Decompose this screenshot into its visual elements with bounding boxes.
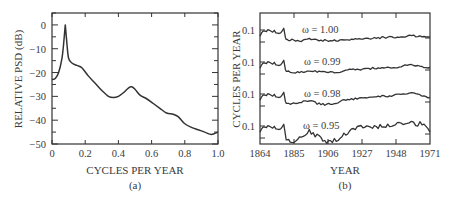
x-tick-label: 0: [49, 148, 54, 159]
panel-b-y-axis-label: CYCLES PER YEAR: [230, 30, 242, 128]
series-line: [260, 121, 430, 143]
figure: 00.20.40.60.81.0 0−10−20−30−40−50 CYCLES…: [0, 0, 453, 197]
panel-b-caption: (b): [339, 179, 352, 192]
panel-b-x-axis-label: YEAR: [330, 164, 361, 176]
y-tick-label: −40: [30, 115, 46, 126]
x-tick-label: 0.4: [112, 148, 126, 159]
series-label: ω = 0.98: [304, 88, 340, 99]
y-tick-label: −30: [30, 91, 46, 102]
panel-b-y-tick-labels: 0.10.10.10.1: [242, 25, 255, 132]
panel-a-frame: [52, 13, 218, 144]
y-tick-label: 0.1: [242, 121, 255, 132]
x-tick-label: 1.0: [211, 148, 224, 159]
panel-b-series-lines: [260, 28, 430, 143]
x-tick-label: 0.8: [178, 148, 191, 159]
y-tick-label: 0.1: [242, 25, 255, 36]
x-tick-label: 0.6: [145, 148, 158, 159]
series-label: ω = 0.95: [303, 120, 339, 131]
x-tick-label: 1927: [352, 148, 373, 159]
panel-a-x-axis-label: CYCLES PER YEAR: [86, 164, 184, 176]
panel-b-frequency-chart: 186418851906192719481971 0.10.10.10.1 ω …: [230, 13, 441, 192]
y-tick-label: 0.1: [242, 57, 255, 68]
y-tick-label: −50: [30, 139, 46, 150]
y-tick-label: 0: [41, 20, 46, 31]
y-tick-label: −10: [30, 44, 46, 55]
panel-a-caption: (a): [129, 179, 142, 192]
panel-a-psd-curve: [52, 25, 218, 135]
panel-a-y-axis-label: RELATIVE PSD (dB): [12, 29, 25, 128]
x-tick-label: 1864: [250, 148, 272, 159]
series-label: ω = 0.99: [304, 56, 340, 67]
series-line: [260, 28, 430, 41]
y-tick-label: 0.1: [242, 89, 255, 100]
panel-a-ticks: [52, 13, 218, 144]
panel-b-x-tick-labels: 186418851906192719481971: [250, 148, 441, 159]
x-tick-label: 1885: [284, 148, 305, 159]
series-label: ω = 1.00: [302, 24, 338, 35]
x-tick-label: 1948: [386, 148, 407, 159]
panel-a-x-tick-labels: 00.20.40.60.81.0: [49, 148, 224, 159]
x-tick-label: 1906: [318, 148, 339, 159]
x-tick-label: 1971: [420, 148, 441, 159]
series-line: [260, 92, 430, 105]
panel-a-psd-chart: 00.20.40.60.81.0 0−10−20−30−40−50 CYCLES…: [12, 13, 225, 192]
series-line: [260, 60, 430, 73]
x-tick-label: 0.2: [79, 148, 92, 159]
panel-a-y-tick-labels: 0−10−20−30−40−50: [30, 20, 46, 150]
y-tick-label: −20: [30, 68, 46, 79]
